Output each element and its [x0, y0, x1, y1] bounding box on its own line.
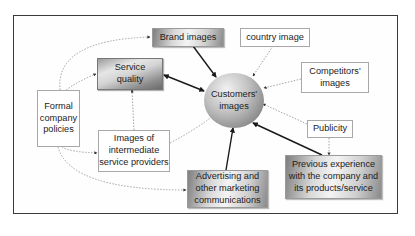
node-advertising: Advertising and other marketing communic…	[187, 170, 268, 208]
node-label: Customers'	[211, 89, 257, 101]
node-label: images	[320, 78, 350, 90]
edge-country-to-center	[253, 46, 273, 76]
node-publicity: Publicity	[307, 120, 353, 138]
edge-advertising-to-center	[226, 128, 233, 170]
edge-competitors-to-center	[264, 79, 301, 88]
node-label: policies	[43, 124, 74, 136]
node-label: Publicity	[313, 123, 347, 135]
edge-brand-to-center	[193, 46, 216, 77]
node-label: Service	[115, 62, 146, 74]
node-label: communications	[194, 195, 260, 207]
node-label: service providers	[99, 157, 168, 169]
node-intermediate-providers: Images of intermediate service providers	[98, 130, 170, 172]
edge-policies-to-service	[66, 74, 96, 90]
node-competitors-images: Competitors' images	[301, 62, 369, 93]
edge-intermediate-to-center	[170, 116, 213, 143]
node-label: country image	[246, 32, 304, 44]
node-label: Brand images	[160, 32, 217, 44]
node-label: intermediate	[109, 145, 160, 157]
edge-intermediate-to-service	[132, 90, 134, 130]
diagram-canvas: Brand images country image Service quali…	[0, 0, 415, 236]
node-label: other marketing	[196, 183, 260, 195]
node-country-image: country image	[240, 28, 310, 47]
edge-policies-to-intermediate	[62, 147, 97, 153]
node-label: images	[211, 101, 257, 113]
node-label: Images of	[114, 133, 154, 145]
node-previous-experience: Previous experience with the company and…	[285, 155, 382, 199]
edge-publicity-to-center	[263, 104, 307, 124]
node-label: Competitors'	[309, 66, 360, 78]
node-customers-images: Customers' images	[204, 73, 264, 128]
node-label: quality	[117, 74, 144, 86]
node-label: company	[40, 113, 77, 125]
node-brand-images: Brand images	[152, 28, 224, 47]
node-service-quality: Service quality	[97, 58, 163, 90]
node-formal-company-policies: Formal company policies	[37, 90, 80, 147]
node-label: Formal	[44, 101, 73, 113]
edge-service-to-center	[164, 75, 204, 91]
node-label: Advertising and	[196, 171, 259, 183]
node-label: with the company and	[289, 171, 378, 183]
node-label: Previous experience	[292, 159, 375, 171]
node-label: its products/service	[294, 183, 373, 195]
